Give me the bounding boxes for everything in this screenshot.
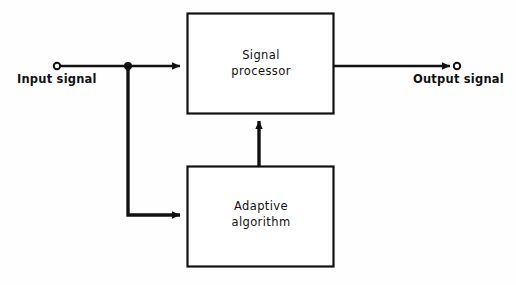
terminal-input-circle (54, 63, 60, 69)
block-adaptive-algorithm (188, 167, 334, 267)
input-signal-label: Input signal (17, 72, 97, 86)
diagram-canvas (0, 0, 516, 285)
connector-input-branch-to-algorithm (128, 66, 180, 215)
junction-dot (124, 62, 132, 70)
terminal-output-circle (454, 63, 460, 69)
block-diagram: Signalprocessor Adaptivealgorithm Input … (0, 0, 516, 285)
block-signal-processor (188, 14, 334, 114)
output-signal-label: Output signal (413, 72, 504, 86)
